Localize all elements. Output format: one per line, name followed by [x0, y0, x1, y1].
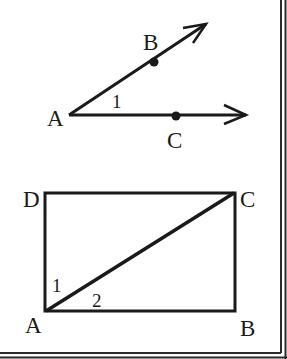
label-corner-d: D: [23, 187, 40, 212]
label-point-b: B: [143, 30, 158, 55]
label-corner-a: A: [25, 313, 42, 338]
figure-angle: A B C 1: [47, 24, 246, 153]
figure-rectangle: D C B A 1 2: [23, 187, 255, 341]
label-point-c: C: [167, 128, 182, 153]
label-angle-1: 1: [52, 275, 62, 296]
ray-ab: [69, 24, 206, 115]
label-vertex-a: A: [47, 106, 64, 131]
geometry-diagram: A B C 1 D C B A 1 2: [0, 0, 287, 359]
label-angle-2: 2: [92, 290, 102, 311]
label-angle-1: 1: [112, 91, 122, 112]
diagonal-ac: [46, 193, 234, 311]
point-c: [172, 112, 181, 121]
ray-ab-arrowhead-icon: [183, 24, 206, 43]
label-corner-c: C: [240, 187, 255, 212]
point-b: [150, 58, 159, 67]
label-corner-b: B: [240, 316, 255, 341]
